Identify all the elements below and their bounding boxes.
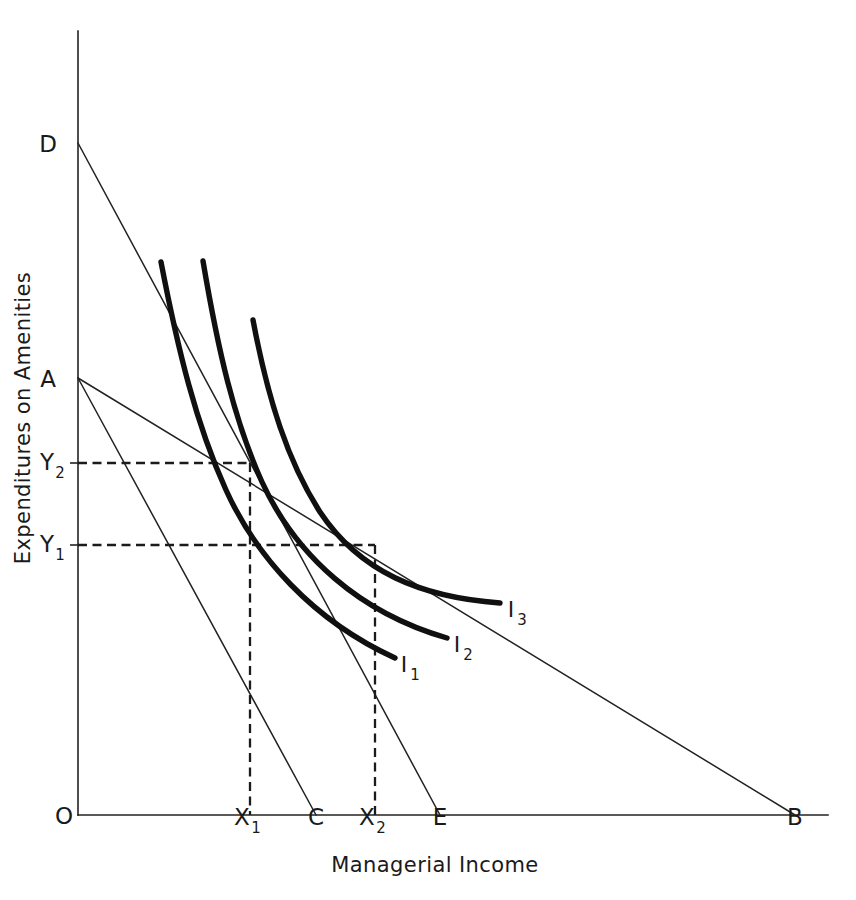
point-label-d: D [39, 131, 57, 157]
indifference-curve-figure: D A O C E B X 1 X 2 Y 2 Y 1 I 1 I 2 I 3 … [0, 0, 856, 900]
curve-label-i3: I [508, 597, 515, 622]
point-label-y1: Y [39, 531, 55, 557]
y-axis-title: Expenditures on Amenities [11, 272, 35, 564]
x-axis-title: Managerial Income [331, 853, 538, 877]
curve-label-i2: I [454, 632, 461, 657]
point-label-o: O [55, 803, 73, 829]
curve-label-i2-subscript: 2 [463, 646, 473, 664]
point-label-y1-subscript: 1 [55, 546, 65, 564]
point-label-y2: Y [39, 449, 55, 475]
figure-root: D A O C E B X 1 X 2 Y 2 Y 1 I 1 I 2 I 3 … [0, 0, 856, 900]
point-label-x2: X [359, 804, 375, 830]
curve-label-i3-subscript: 3 [517, 611, 527, 629]
figure-background [0, 0, 856, 900]
point-label-c: C [308, 804, 324, 830]
curve-label-i1-subscript: 1 [410, 666, 420, 684]
point-label-x1: X [234, 804, 250, 830]
point-label-a: A [40, 366, 56, 392]
curve-label-i1: I [401, 652, 408, 677]
point-label-y2-subscript: 2 [55, 464, 65, 482]
point-label-b: B [787, 804, 803, 830]
point-label-e: E [433, 804, 448, 830]
point-label-x1-subscript: 1 [251, 819, 261, 837]
point-label-x2-subscript: 2 [376, 819, 386, 837]
